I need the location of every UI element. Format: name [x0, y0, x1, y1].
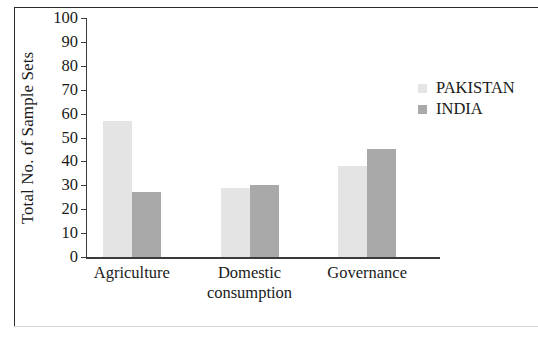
bar-pakistan-0	[103, 121, 132, 257]
y-tick-label: 80	[32, 58, 78, 75]
plot-area	[87, 18, 440, 257]
y-tick-mark	[81, 257, 87, 258]
legend-label: PAKISTAN	[436, 80, 515, 97]
bar-pakistan-2	[338, 166, 367, 257]
y-tick-mark	[81, 18, 87, 19]
x-category-label: Agriculture	[72, 263, 192, 283]
bar-india-1	[250, 185, 279, 257]
y-tick-label: 60	[32, 105, 78, 122]
y-tick-label: 90	[32, 34, 78, 51]
x-category-label-line: consumption	[190, 283, 310, 303]
chart-legend: PAKISTANINDIA	[418, 78, 536, 120]
y-tick-label: 20	[32, 201, 78, 218]
y-tick-label: 100	[32, 10, 78, 27]
legend-item-india: INDIA	[418, 99, 536, 120]
bar-india-2	[367, 149, 396, 257]
y-tick-label: 10	[32, 225, 78, 242]
legend-swatch-icon	[418, 105, 427, 114]
y-tick-mark	[81, 233, 87, 234]
y-tick-mark	[81, 138, 87, 139]
x-category-label: Domesticconsumption	[190, 263, 310, 303]
y-tick-mark	[81, 90, 87, 91]
legend-item-pakistan: PAKISTAN	[418, 78, 536, 99]
y-tick-mark	[81, 161, 87, 162]
y-tick-label: 70	[32, 81, 78, 98]
y-tick-label: 50	[32, 129, 78, 146]
y-tick-label: 40	[32, 153, 78, 170]
bar-pakistan-1	[221, 188, 250, 257]
x-category-label: Governance	[307, 263, 427, 283]
bar-india-0	[132, 192, 161, 257]
y-tick-mark	[81, 66, 87, 67]
y-tick-mark	[81, 42, 87, 43]
bar-chart: Total No. of Sample Sets 100908070605040…	[0, 0, 538, 338]
x-category-label-line: Governance	[307, 263, 427, 283]
legend-label: INDIA	[436, 101, 483, 118]
y-tick-mark	[81, 114, 87, 115]
y-axis-tick-labels: 1009080706050403020100	[32, 10, 78, 262]
x-category-label-line: Domestic	[190, 263, 310, 283]
y-tick-label: 30	[32, 177, 78, 194]
x-category-label-line: Agriculture	[72, 263, 192, 283]
legend-swatch-icon	[418, 84, 427, 93]
y-tick-mark	[81, 185, 87, 186]
y-tick-mark	[81, 209, 87, 210]
x-axis-line	[86, 257, 440, 259]
